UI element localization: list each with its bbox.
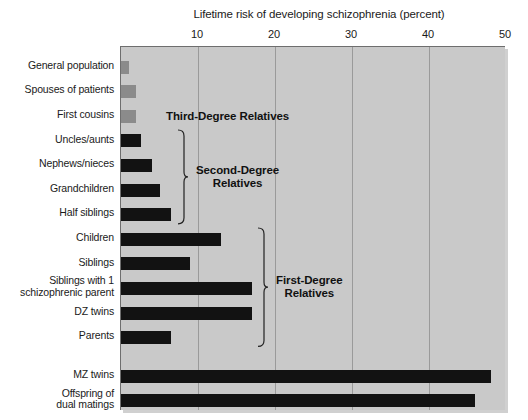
gridline-10 (198, 47, 199, 410)
y-label-10: DZ twins (0, 306, 114, 318)
schizophrenia-risk-chart: Lifetime risk of developing schizophreni… (0, 0, 528, 420)
y-label-1: Spouses of patients (0, 84, 114, 96)
plot-inner (121, 47, 505, 410)
bar (121, 134, 141, 147)
bar (121, 61, 129, 74)
chart-title: Lifetime risk of developing schizophreni… (110, 8, 528, 20)
bar (121, 85, 136, 98)
annotation-third-degree: Third-Degree Relatives (166, 110, 289, 123)
x-tick-10: 10 (191, 28, 203, 40)
bar (121, 208, 171, 221)
bar (121, 159, 152, 172)
x-tick-30: 30 (345, 28, 357, 40)
bar (121, 307, 252, 320)
gridline-40 (429, 47, 430, 410)
bar (121, 331, 171, 344)
y-label-6: Half siblings (0, 207, 114, 219)
bar (121, 282, 252, 295)
y-label-11: Parents (0, 330, 114, 342)
y-label-5: Grandchildren (0, 183, 114, 195)
y-label-4: Nephews/nieces (0, 158, 114, 170)
y-label-0: General population (0, 60, 114, 72)
y-label-8: Siblings (0, 257, 114, 269)
y-label-3: Uncles/aunts (0, 134, 114, 146)
annotation-first-degree: First-Degree Relatives (276, 274, 343, 300)
gridline-20 (275, 47, 276, 410)
x-tick-40: 40 (422, 28, 434, 40)
bar (121, 233, 221, 246)
y-label-13: Offspring of dual matings (0, 388, 114, 411)
bar (121, 184, 160, 197)
bracket-first-degree (257, 227, 268, 347)
bar (121, 370, 491, 383)
x-tick-50: 50 (499, 28, 511, 40)
y-label-9: Siblings with 1 schizophrenic parent (0, 275, 114, 298)
y-label-12: MZ twins (0, 369, 114, 381)
annotation-second-degree: Second-Degree Relatives (196, 164, 279, 190)
gridline-30 (352, 47, 353, 410)
y-label-7: Children (0, 232, 114, 244)
bar (121, 257, 190, 270)
bar (121, 394, 475, 407)
bracket-second-degree (177, 129, 188, 225)
bar (121, 110, 136, 123)
y-label-2: First cousins (0, 109, 114, 121)
x-tick-20: 20 (268, 28, 280, 40)
plot-area (120, 46, 505, 410)
